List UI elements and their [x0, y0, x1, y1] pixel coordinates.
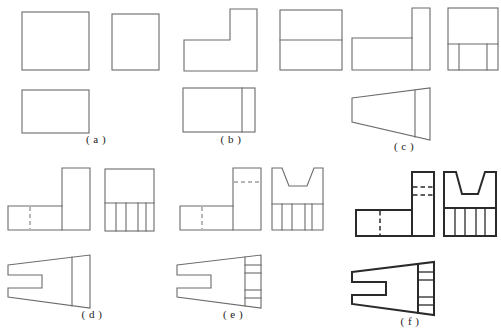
figure-c-front-view — [352, 8, 430, 70]
figure-a-front-view — [22, 12, 89, 70]
figure-d-label: ( d ) — [72, 308, 112, 320]
figure-e-front-view — [180, 168, 261, 230]
figure-e-top-view — [177, 255, 261, 308]
figure-b-top-view — [183, 88, 255, 132]
figure-d-left-side-view — [105, 169, 154, 231]
figure-f-label: ( f ) — [390, 315, 430, 327]
figure-b-svg — [170, 0, 345, 160]
figure-c-svg — [340, 0, 501, 160]
drawing-sheet: ( a ) ( b ) — [0, 0, 501, 336]
figure-e-left-side-view — [272, 168, 323, 230]
figure-a-left-side-view — [112, 14, 159, 70]
figure-e-label: ( e ) — [213, 308, 253, 320]
figure-f: ( f ) — [340, 160, 501, 336]
figure-b: ( b ) — [170, 0, 345, 160]
figure-b-front-view — [184, 9, 257, 71]
figure-c: ( c ) — [340, 0, 501, 160]
figure-f-front-view — [356, 172, 434, 236]
figure-d-top-view — [8, 255, 90, 308]
figure-f-top-view — [352, 262, 434, 315]
figure-b-left-side-view — [280, 10, 342, 70]
figure-a: ( a ) — [0, 0, 170, 160]
figure-c-left-side-view — [448, 8, 498, 70]
figure-f-left-side-view — [444, 172, 496, 236]
figure-d-front-view — [8, 168, 90, 230]
figure-d: ( d ) — [0, 160, 170, 336]
figure-c-label: ( c ) — [384, 140, 424, 152]
figure-e: ( e ) — [165, 160, 340, 336]
figure-a-top-view — [22, 90, 89, 133]
figure-a-label: ( a ) — [76, 133, 116, 145]
figure-c-top-view — [352, 88, 430, 140]
figure-f-svg — [340, 160, 501, 336]
figure-b-label: ( b ) — [211, 133, 251, 145]
